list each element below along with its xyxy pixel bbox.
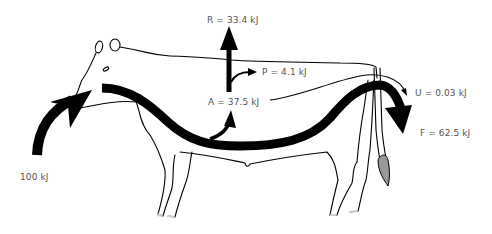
- feces-arrowhead: [385, 105, 412, 134]
- urine-label: U = 0.03 kJ: [415, 88, 467, 98]
- input-energy-label: 100 kJ: [20, 172, 49, 182]
- production-arrowhead: [248, 68, 257, 76]
- hooves: [157, 210, 358, 218]
- respiration-label: R = 33.4 kJ: [207, 15, 258, 25]
- production-arrow: [231, 72, 250, 82]
- cow-illustration: [0, 0, 492, 234]
- assimilation-arrowhead: [224, 110, 236, 128]
- energy-flow-diagram: 100 kJ R = 33.4 kJ P = 4.1 kJ A = 37.5 k…: [0, 0, 492, 234]
- gut-flow-arrow: [102, 85, 402, 146]
- respiration-arrowhead: [220, 26, 238, 50]
- input-arrow: [37, 90, 92, 155]
- production-label: P = 4.1 kJ: [262, 67, 307, 77]
- tail-tuft: [378, 155, 390, 186]
- assimilation-label: A = 37.5 kJ: [208, 97, 259, 107]
- urine-arrowhead: [401, 88, 407, 96]
- feces-label: F = 62.5 kJ: [420, 128, 470, 138]
